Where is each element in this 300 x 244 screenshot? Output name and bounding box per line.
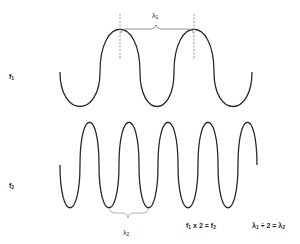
brace-lambda2 (110, 209, 148, 218)
label-lambda1: λ1 (152, 12, 158, 20)
brace-lambda1 (121, 25, 193, 33)
equation-wavelength: λ1 ÷ 2 = λ2 (252, 222, 285, 230)
wave-f1 (60, 29, 252, 106)
equation-frequency: f1 x 2 = f2 (186, 222, 216, 230)
label-f1: f1 (9, 73, 14, 81)
label-lambda2: λ2 (123, 229, 129, 237)
wave-diagram (0, 0, 300, 244)
wave-f2 (60, 122, 257, 208)
label-f2: f2 (9, 182, 14, 190)
